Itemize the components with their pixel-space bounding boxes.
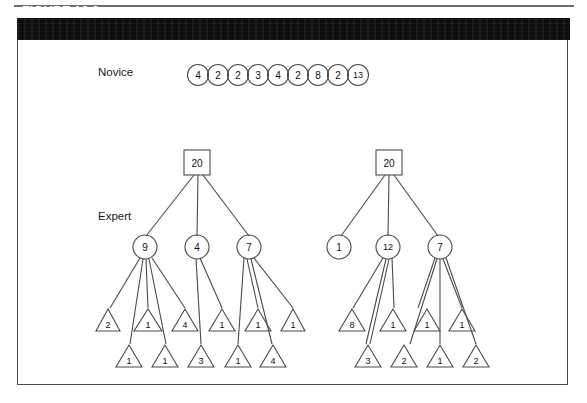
novice-row-label: Novice — [98, 66, 133, 78]
expert-row-label: Expert — [98, 210, 131, 222]
caption-bar-texture — [17, 18, 570, 40]
figure-caption-bar — [17, 18, 570, 40]
figure-root: FIGURE 16.2 — [0, 0, 587, 403]
figure-number-label: FIGURE 16.2 — [22, 4, 99, 18]
